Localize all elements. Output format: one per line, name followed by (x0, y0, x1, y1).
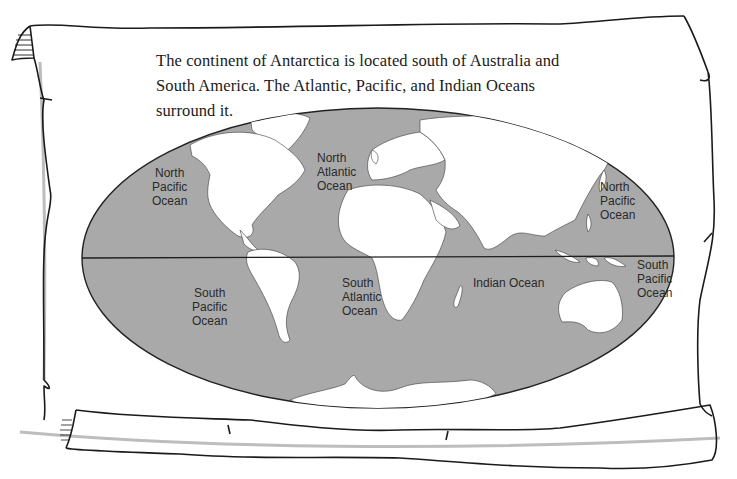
label-north-atlantic: North Atlantic Ocean (317, 151, 356, 193)
label-north-pacific-west: North Pacific Ocean (152, 166, 187, 208)
caption-line-3: surround it. (156, 98, 626, 123)
new-zealand (637, 336, 643, 350)
label-south-atlantic: South Atlantic Ocean (342, 276, 381, 318)
label-north-pacific-east: North Pacific Ocean (600, 180, 635, 222)
caption-text: The continent of Antarctica is located s… (156, 48, 626, 123)
label-indian-ocean: Indian Ocean (473, 276, 544, 290)
caption-line-1: The continent of Antarctica is located s… (156, 48, 626, 73)
label-south-pacific-west: South Pacific Ocean (192, 286, 227, 328)
caption-line-2: South America. The Atlantic, Pacific, an… (156, 73, 626, 98)
label-south-pacific-east: South Pacific Ocean (637, 258, 672, 300)
